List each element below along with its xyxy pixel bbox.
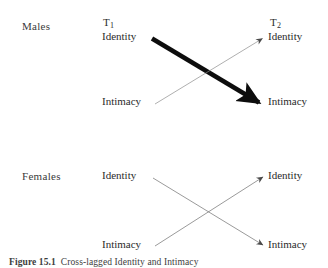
group-label-males: Males [22,20,50,32]
node-males-t2-identity: Identity [268,30,302,42]
path-females-identity-to-intimacy [153,178,263,245]
node-females-t1-identity: Identity [102,169,136,181]
path-females-intimacy-to-identity [155,177,263,246]
group-label-females: Females [22,170,61,182]
figure-caption: Figure 15.1 Cross-lagged Identity and In… [9,257,198,268]
time-label-t1-subscript: 1 [110,21,114,30]
node-males-t1-identity: Identity [102,30,136,42]
node-females-t1-intimacy: Intimacy [102,238,141,250]
path-males-identity-to-intimacy [152,39,259,103]
figure-caption-text: Cross-lagged Identity and Intimacy [61,257,199,267]
node-females-t2-intimacy: Intimacy [268,238,307,250]
time-label-t1-letter: T [103,16,110,28]
node-females-t2-identity: Identity [268,169,302,181]
time-label-t1: T1 [103,16,114,28]
time-label-t2-letter: T [270,16,277,28]
time-label-t2-subscript: 2 [277,21,281,30]
figure-root: Males T1 T2 Identity Intimacy Identity I… [0,0,328,268]
time-label-t2: T2 [270,16,281,28]
node-males-t1-intimacy: Intimacy [102,95,141,107]
figure-caption-label: Figure 15.1 [9,257,56,267]
path-males-intimacy-to-identity [155,39,263,105]
node-males-t2-intimacy: Intimacy [268,95,307,107]
